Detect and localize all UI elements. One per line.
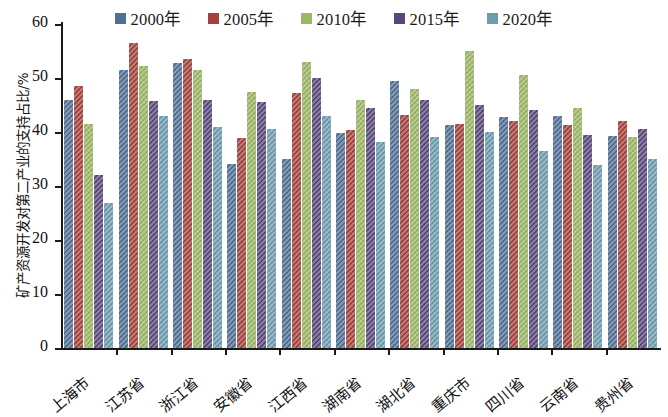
plot-area: 6050403020100 — [62, 24, 660, 348]
x-axis-label: 湖南省 — [317, 372, 365, 417]
y-axis-label: 10 — [6, 284, 48, 300]
x-axis-label: 浙江省 — [154, 372, 202, 417]
x-axis-tick — [606, 348, 608, 355]
bar[interactable] — [628, 137, 637, 348]
bar[interactable] — [183, 59, 192, 348]
bar[interactable] — [159, 116, 168, 348]
x-axis-tick — [388, 348, 390, 355]
bar[interactable] — [465, 51, 474, 348]
bar[interactable] — [312, 78, 321, 348]
y-axis-tick — [55, 24, 62, 26]
y-axis-tick — [55, 240, 62, 242]
x-axis-tick — [497, 348, 499, 355]
y-axis-label: 30 — [6, 176, 48, 192]
y-axis-label: 0 — [6, 338, 48, 354]
x-axis-tick — [443, 348, 445, 355]
bar-group — [336, 24, 386, 348]
bar[interactable] — [64, 100, 73, 348]
bar-group — [445, 24, 495, 348]
bar[interactable] — [84, 124, 93, 348]
bar[interactable] — [648, 159, 657, 348]
bar[interactable] — [336, 133, 345, 348]
x-axis-label: 重庆市 — [426, 372, 474, 417]
bar[interactable] — [455, 124, 464, 348]
bar[interactable] — [74, 86, 83, 348]
bar[interactable] — [485, 132, 494, 348]
bar[interactable] — [94, 175, 103, 348]
bar[interactable] — [119, 70, 128, 348]
x-axis-tick — [334, 348, 336, 355]
bar[interactable] — [193, 70, 202, 348]
y-axis-tick — [55, 186, 62, 188]
bar[interactable] — [553, 116, 562, 348]
bar[interactable] — [247, 92, 256, 349]
y-axis-label: 60 — [6, 14, 48, 30]
x-axis-label: 云南省 — [535, 372, 583, 417]
bar[interactable] — [509, 121, 518, 348]
bar[interactable] — [346, 130, 355, 348]
bar[interactable] — [104, 203, 113, 348]
x-axis-label: 江苏省 — [100, 372, 148, 417]
bar[interactable] — [366, 108, 375, 348]
y-axis-tick — [55, 348, 62, 350]
bar-group — [64, 24, 114, 348]
bar[interactable] — [445, 125, 454, 348]
bar[interactable] — [322, 116, 331, 348]
bar[interactable] — [227, 164, 236, 348]
bar[interactable] — [475, 105, 484, 348]
bar[interactable] — [203, 100, 212, 348]
x-axis-line — [61, 348, 661, 350]
bar-group — [282, 24, 332, 348]
x-axis-label: 上海市 — [46, 372, 94, 417]
bar[interactable] — [573, 108, 582, 348]
y-axis-label: 20 — [6, 230, 48, 246]
y-axis-label: 50 — [6, 68, 48, 84]
x-axis-tick — [116, 348, 118, 355]
bar[interactable] — [257, 102, 266, 348]
bar[interactable] — [519, 75, 528, 348]
bar[interactable] — [583, 135, 592, 348]
x-axis-tick — [225, 348, 227, 355]
bar[interactable] — [618, 121, 627, 348]
bar-group — [227, 24, 277, 348]
bar[interactable] — [638, 129, 647, 348]
bar-group — [390, 24, 440, 348]
bar[interactable] — [400, 115, 409, 348]
y-axis-label: 40 — [6, 122, 48, 138]
legend-swatch-icon — [301, 13, 312, 24]
x-axis-label: 安徽省 — [209, 372, 257, 417]
bar-group — [499, 24, 549, 348]
bar[interactable] — [430, 137, 439, 348]
bar-group — [173, 24, 223, 348]
bar[interactable] — [237, 138, 246, 348]
bar-group — [608, 24, 658, 348]
bar[interactable] — [390, 81, 399, 348]
x-axis-label: 贵州省 — [589, 372, 637, 417]
y-axis-tick — [55, 294, 62, 296]
legend-swatch-icon — [487, 13, 498, 24]
bar[interactable] — [139, 66, 148, 348]
bar[interactable] — [499, 117, 508, 348]
bar[interactable] — [356, 100, 365, 348]
bar[interactable] — [292, 93, 301, 348]
bar[interactable] — [213, 127, 222, 348]
bar[interactable] — [302, 62, 311, 348]
bar-group — [553, 24, 603, 348]
bar[interactable] — [173, 63, 182, 348]
bar[interactable] — [529, 110, 538, 348]
bar[interactable] — [376, 142, 385, 348]
bar[interactable] — [420, 100, 429, 348]
bar[interactable] — [282, 159, 291, 348]
x-axis-label: 湖北省 — [372, 372, 420, 417]
bar[interactable] — [593, 165, 602, 348]
bar[interactable] — [267, 129, 276, 348]
bar[interactable] — [410, 89, 419, 348]
legend-swatch-icon — [208, 13, 219, 24]
bar[interactable] — [608, 136, 617, 348]
legend-swatch-icon — [115, 13, 126, 24]
bar[interactable] — [129, 43, 138, 348]
bar[interactable] — [539, 151, 548, 348]
bar[interactable] — [149, 101, 158, 348]
bar[interactable] — [563, 125, 572, 348]
